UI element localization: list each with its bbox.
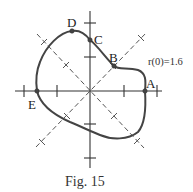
point-b-label: B: [109, 50, 118, 65]
point-d-label: D: [67, 15, 76, 30]
point-a-label: A: [146, 76, 156, 91]
point-c-label: C: [94, 32, 103, 47]
point-e-marker: [35, 89, 39, 93]
polar-curve: [36, 31, 145, 139]
initial-radius-annotation: r(0)=1.6: [148, 56, 183, 68]
polar-figure: A B C D E r(0)=1.6 Fig. 15: [0, 0, 193, 192]
point-c-marker: [88, 38, 92, 42]
point-e-label: E: [28, 97, 36, 112]
figure-caption: Fig. 15: [65, 174, 105, 189]
diagonal-axis-rising: [36, 32, 147, 147]
point-markers: [35, 29, 147, 93]
